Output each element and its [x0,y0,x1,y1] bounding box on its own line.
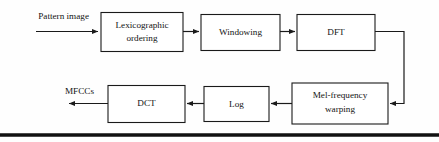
block-windowing: Windowing [201,15,280,51]
block-lexicographic-ordering-label-line1: Lexicographic [115,20,168,30]
block-log: Log [204,87,269,122]
block-mel-frequency-warping: Mel-frequency warping [292,83,388,124]
mfcc-flowchart-diagram: Pattern image Lexicographic ordering Win… [0,0,439,142]
block-dft-label: DFT [327,27,345,37]
block-dft: DFT [297,15,375,51]
block-dct: DCT [108,86,185,123]
block-mel-frequency-warping-label-line2: warping [325,104,356,114]
block-windowing-label: Windowing [219,27,262,37]
output-label-mfccs: MFCCs [65,86,95,96]
block-log-label: Log [229,99,244,109]
block-lexicographic-ordering-label-line2: ordering [126,33,158,43]
block-dct-label: DCT [137,98,156,108]
block-lexicographic-ordering: Lexicographic ordering [101,13,183,52]
input-label-pattern-image: Pattern image [38,11,89,21]
flowchart-canvas: Pattern image Lexicographic ordering Win… [0,0,439,142]
block-mel-frequency-warping-label-line1: Mel-frequency [313,90,368,100]
